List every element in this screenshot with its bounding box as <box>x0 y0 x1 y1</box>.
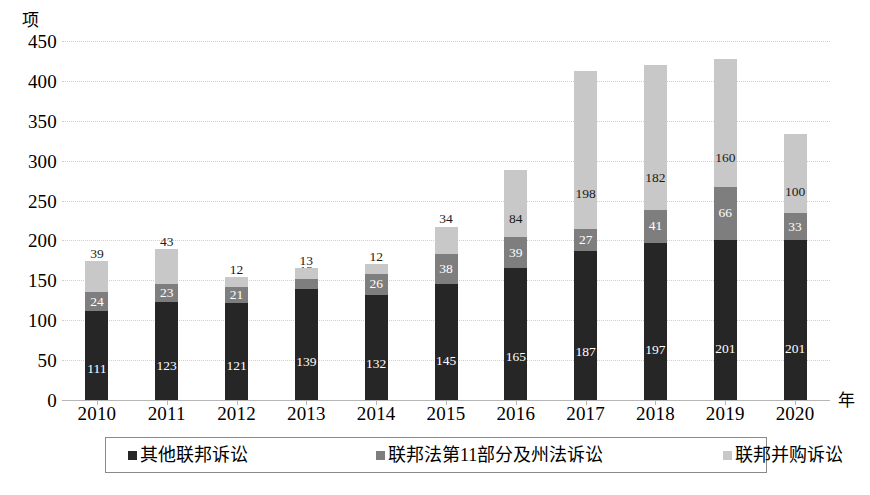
bar-value-label: 139 <box>296 355 316 369</box>
bar-segment[interactable]: 111 <box>85 311 108 400</box>
bar-segment[interactable]: 100 <box>784 134 807 214</box>
bar-segment[interactable]: 12 <box>225 277 248 287</box>
x-axis-tick-label: 2019 <box>690 404 760 425</box>
y-axis-tick-label: 0 <box>0 391 57 410</box>
y-axis-unit-label: 项 <box>22 12 39 29</box>
bar-group[interactable]: 1391313 <box>295 268 318 400</box>
legend-swatch-icon <box>128 451 137 460</box>
legend-swatch-icon <box>376 451 385 460</box>
bar-segment[interactable]: 13 <box>295 268 318 278</box>
bar-segment[interactable]: 121 <box>225 303 248 400</box>
bar-value-label: 111 <box>87 362 106 376</box>
x-axis-tick-label: 2015 <box>411 404 481 425</box>
bar-value-label: 23 <box>160 286 174 300</box>
bar-segment[interactable]: 43 <box>155 249 178 283</box>
plot-area: 1112439123234312121121391313132261214538… <box>62 41 830 400</box>
bar-value-label: 182 <box>645 171 665 185</box>
x-axis-unit-label: 年 <box>838 392 855 409</box>
bar-segment[interactable]: 139 <box>295 289 318 400</box>
bar-value-label: 34 <box>439 212 453 226</box>
x-axis-tick-label: 2018 <box>620 404 690 425</box>
bar-value-label: 197 <box>645 343 665 357</box>
x-axis-tick-label: 2017 <box>551 404 621 425</box>
bar-segment[interactable]: 145 <box>435 284 458 400</box>
bar-segment[interactable]: 182 <box>644 65 667 210</box>
bar-segment[interactable]: 201 <box>784 240 807 400</box>
bar-segment[interactable]: 201 <box>714 240 737 400</box>
legend-item[interactable]: 联邦并购诉讼 <box>723 446 843 464</box>
bar-value-label: 21 <box>230 288 244 302</box>
x-axis-tick-label: 2012 <box>202 404 272 425</box>
bar-group[interactable]: 19741182 <box>644 65 667 400</box>
bar-segment[interactable]: 13 <box>295 279 318 289</box>
x-axis <box>62 400 830 401</box>
bar-segment[interactable]: 26 <box>365 274 388 295</box>
bar-value-label: 13 <box>300 254 314 268</box>
legend-label: 联邦并购诉讼 <box>735 446 843 464</box>
bar-segment[interactable]: 12 <box>365 264 388 274</box>
bar-group[interactable]: 1232343 <box>155 249 178 400</box>
x-axis-tick-label: 2010 <box>62 404 132 425</box>
bar-group[interactable]: 1453834 <box>435 227 458 400</box>
bar-value-label: 84 <box>509 212 523 226</box>
bar-group[interactable]: 1322612 <box>365 264 388 400</box>
legend-item[interactable]: 联邦法第11部分及州法诉讼 <box>376 446 603 464</box>
bar-group[interactable]: 1112439 <box>85 261 108 400</box>
bar-value-label: 121 <box>226 359 246 373</box>
bar-segment[interactable]: 123 <box>155 302 178 400</box>
bar-segment[interactable]: 39 <box>85 261 108 292</box>
bar-segment[interactable]: 38 <box>435 254 458 284</box>
bar-segment[interactable]: 33 <box>784 213 807 239</box>
y-axis-tick-label: 300 <box>0 151 57 170</box>
bar-segment[interactable]: 160 <box>714 59 737 187</box>
legend-label: 联邦法第11部分及州法诉讼 <box>388 446 603 464</box>
bar-segment[interactable]: 197 <box>644 243 667 400</box>
bar-segment[interactable]: 187 <box>574 251 597 400</box>
y-axis-tick-label: 200 <box>0 231 57 250</box>
bar-segment[interactable]: 84 <box>504 170 527 237</box>
bar-value-label: 12 <box>369 250 383 264</box>
chart-legend: 其他联邦诉讼联邦法第11部分及州法诉讼联邦并购诉讼 <box>105 437 767 473</box>
bar-value-label: 132 <box>366 357 386 371</box>
y-axis-tick-label: 100 <box>0 311 57 330</box>
bar-segment[interactable]: 34 <box>435 227 458 254</box>
x-axis-tick-label: 2014 <box>341 404 411 425</box>
bar-segment[interactable]: 39 <box>504 237 527 268</box>
bar-value-label: 38 <box>439 262 453 276</box>
bar-segment[interactable]: 21 <box>225 287 248 304</box>
gridline-450 <box>62 41 830 42</box>
y-axis-tick-label: 400 <box>0 71 57 90</box>
bar-value-label: 41 <box>649 220 663 234</box>
bar-group[interactable]: 20166160 <box>714 59 737 400</box>
bar-group[interactable]: 1212112 <box>225 277 248 400</box>
bar-value-label: 201 <box>715 342 735 356</box>
x-axis-tick-label: 2013 <box>271 404 341 425</box>
bar-segment[interactable]: 27 <box>574 229 597 251</box>
bar-value-label: 66 <box>719 207 733 221</box>
bar-value-label: 24 <box>90 295 104 309</box>
bar-value-label: 33 <box>788 220 802 234</box>
bar-segment[interactable]: 198 <box>574 71 597 229</box>
bar-segment[interactable]: 24 <box>85 292 108 311</box>
bar-segment[interactable]: 23 <box>155 284 178 302</box>
bar-value-label: 100 <box>785 185 805 199</box>
legend-label: 其他联邦诉讼 <box>140 446 248 464</box>
y-axis-tick-label: 350 <box>0 111 57 130</box>
legend-item[interactable]: 其他联邦诉讼 <box>128 446 248 464</box>
legend-swatch-icon <box>723 451 732 460</box>
bar-value-label: 39 <box>90 247 104 261</box>
y-axis-tick-label: 150 <box>0 271 57 290</box>
bar-segment[interactable]: 132 <box>365 295 388 400</box>
bar-value-label: 145 <box>436 354 456 368</box>
bar-group[interactable]: 1653984 <box>504 170 527 400</box>
bar-segment[interactable]: 66 <box>714 187 737 240</box>
bar-group[interactable]: 18727198 <box>574 71 597 400</box>
bar-group[interactable]: 20133100 <box>784 134 807 400</box>
x-axis-tick-label: 2016 <box>481 404 551 425</box>
bar-value-label: 39 <box>509 246 523 260</box>
y-axis-tick-label: 250 <box>0 191 57 210</box>
bar-value-label: 187 <box>576 345 596 359</box>
bar-segment[interactable]: 165 <box>504 268 527 400</box>
bar-value-label: 198 <box>576 187 596 201</box>
bar-segment[interactable]: 41 <box>644 210 667 243</box>
